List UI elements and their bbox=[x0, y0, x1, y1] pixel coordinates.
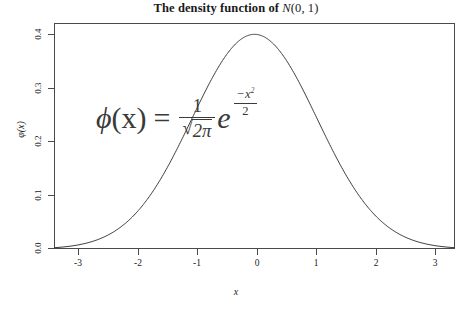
xtick-label-4: 1 bbox=[303, 258, 329, 268]
ytick-label-4: 0.4 bbox=[33, 22, 43, 46]
xtick-mark bbox=[376, 249, 377, 255]
formula-fraction-denominator: √ 2π bbox=[179, 118, 215, 141]
formula-exponent: −x2 2 bbox=[232, 87, 260, 118]
ytick-mark bbox=[48, 34, 54, 35]
xtick-mark bbox=[435, 249, 436, 255]
formula-exponential-base: e bbox=[217, 103, 230, 133]
xtick-label-0: -3 bbox=[65, 258, 91, 268]
chart-title-distribution-symbol: N bbox=[282, 1, 290, 15]
xtick-label-3: 0 bbox=[244, 258, 270, 268]
chart-title-text: The density function of bbox=[154, 1, 283, 15]
formula-exponent-numerator: −x2 bbox=[234, 87, 258, 102]
formula-fraction-numerator: 1 bbox=[190, 96, 205, 117]
formula-radicand: 2π bbox=[192, 119, 213, 141]
xtick-mark bbox=[138, 249, 139, 255]
formula-exponent-fraction: −x2 2 bbox=[234, 87, 258, 118]
x-axis-label: x bbox=[0, 286, 472, 297]
ytick-mark bbox=[48, 195, 54, 196]
ytick-mark bbox=[48, 141, 54, 142]
xtick-label-6: 3 bbox=[422, 258, 448, 268]
formula-exponent-denominator: 2 bbox=[239, 104, 251, 118]
density-formula-annotation: ϕ(x) = 1 √ 2π e −x2 2 bbox=[96, 96, 259, 140]
ytick-label-2: 0.2 bbox=[33, 129, 43, 153]
xtick-mark bbox=[78, 249, 79, 255]
formula-exponent-power: 2 bbox=[251, 86, 255, 95]
xtick-mark bbox=[316, 249, 317, 255]
formula-phi-argument: (x) bbox=[112, 103, 147, 133]
ytick-label-1: 0.1 bbox=[33, 183, 43, 207]
density-plot-figure: The density function of N(0, 1) 0.0 0.1 … bbox=[0, 0, 472, 310]
y-axis-label: φ(x) bbox=[15, 113, 26, 147]
chart-title-distribution-params: (0, 1) bbox=[291, 1, 319, 15]
xtick-label-2: -1 bbox=[184, 258, 210, 268]
chart-title: The density function of N(0, 1) bbox=[0, 1, 472, 16]
ytick-mark bbox=[48, 248, 54, 249]
xtick-mark bbox=[197, 249, 198, 255]
formula-coefficient-fraction: 1 √ 2π bbox=[179, 96, 215, 140]
density-curve-path bbox=[54, 34, 455, 247]
ytick-label-0: 0.0 bbox=[33, 236, 43, 260]
formula-phi-symbol: ϕ bbox=[96, 103, 112, 133]
xtick-mark bbox=[257, 249, 258, 255]
formula-equals-sign: = bbox=[154, 103, 171, 133]
ytick-mark bbox=[48, 88, 54, 89]
formula-exponent-numerator-text: −x bbox=[237, 87, 251, 101]
formula-sqrt: √ 2π bbox=[182, 119, 212, 141]
xtick-label-1: -2 bbox=[125, 258, 151, 268]
ytick-label-3: 0.3 bbox=[33, 76, 43, 100]
xtick-label-5: 2 bbox=[363, 258, 389, 268]
